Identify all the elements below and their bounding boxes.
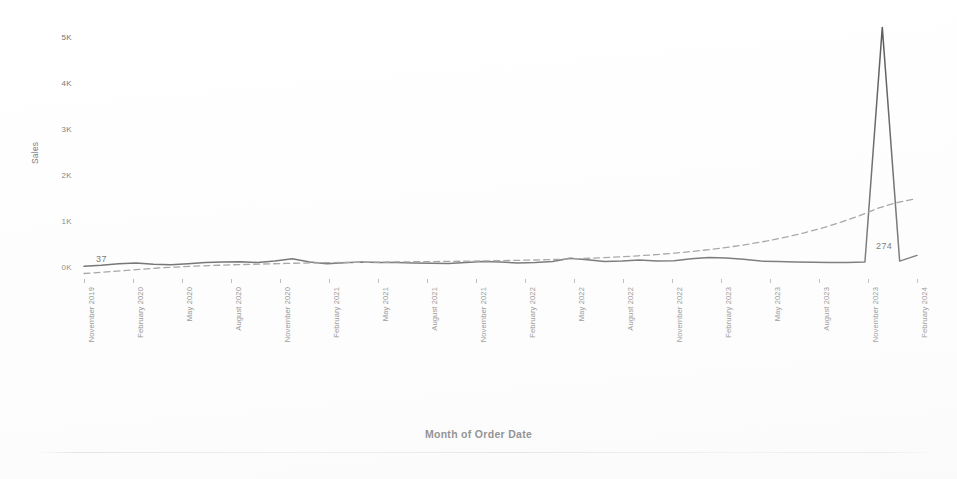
- series-line-sales: [84, 27, 917, 266]
- data-label-37: 37: [96, 254, 107, 264]
- x-axis-title: Month of Order Date: [0, 428, 957, 440]
- plot-area: [0, 0, 957, 479]
- chart-canvas: Sales 5K4K3K2K1K0K November 2019February…: [0, 0, 957, 479]
- scan-artifact-line: [38, 452, 938, 453]
- data-label-274: 274: [876, 241, 892, 251]
